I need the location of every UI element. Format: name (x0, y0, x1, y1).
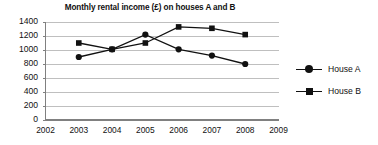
data-point (109, 47, 115, 53)
series-line-house-b (79, 27, 245, 49)
y-axis-tick-label: 600 (8, 73, 38, 82)
series-line-house-a (79, 35, 245, 64)
data-point (176, 46, 182, 52)
x-axis-tick-label: 2004 (95, 126, 129, 134)
x-axis-tick-label: 2007 (195, 126, 229, 134)
chart-legend: House A House B (296, 58, 361, 102)
x-axis-tick-label: 2005 (128, 126, 162, 134)
x-axis-tick-label: 2006 (162, 126, 196, 134)
data-point (176, 24, 182, 30)
y-axis-tick-label: 1200 (8, 31, 38, 40)
legend-marker-circle-icon (296, 63, 322, 75)
y-axis-tick-label: 200 (8, 101, 38, 110)
y-axis-tick-label: 800 (8, 59, 38, 68)
data-point (142, 31, 148, 37)
series-layer (76, 24, 249, 67)
y-axis-tick-label: 0 (8, 115, 38, 124)
x-axis-tick-label: 2008 (228, 126, 262, 134)
y-axis-tick-label: 1000 (8, 45, 38, 54)
x-axis-tick-label: 2002 (29, 126, 63, 134)
data-point (209, 53, 215, 59)
data-point (242, 61, 248, 67)
y-axis-tick-label: 1400 (8, 17, 38, 26)
data-point (209, 26, 215, 32)
legend-label-house-a: House A (322, 64, 361, 74)
line-chart: Monthly rental income (£) on houses A an… (0, 0, 378, 145)
x-axis-tick-label: 2009 (262, 126, 296, 134)
y-axis-tick-label: 400 (8, 87, 38, 96)
data-point (76, 54, 82, 60)
data-point (76, 40, 82, 46)
data-point (242, 32, 248, 38)
legend-marker-square-icon (296, 85, 322, 97)
data-point (143, 40, 149, 46)
x-axis-tick-label: 2003 (62, 126, 96, 134)
legend-item-house-a: House A (296, 58, 361, 80)
legend-label-house-b: House B (322, 86, 361, 96)
legend-item-house-b: House B (296, 80, 361, 102)
